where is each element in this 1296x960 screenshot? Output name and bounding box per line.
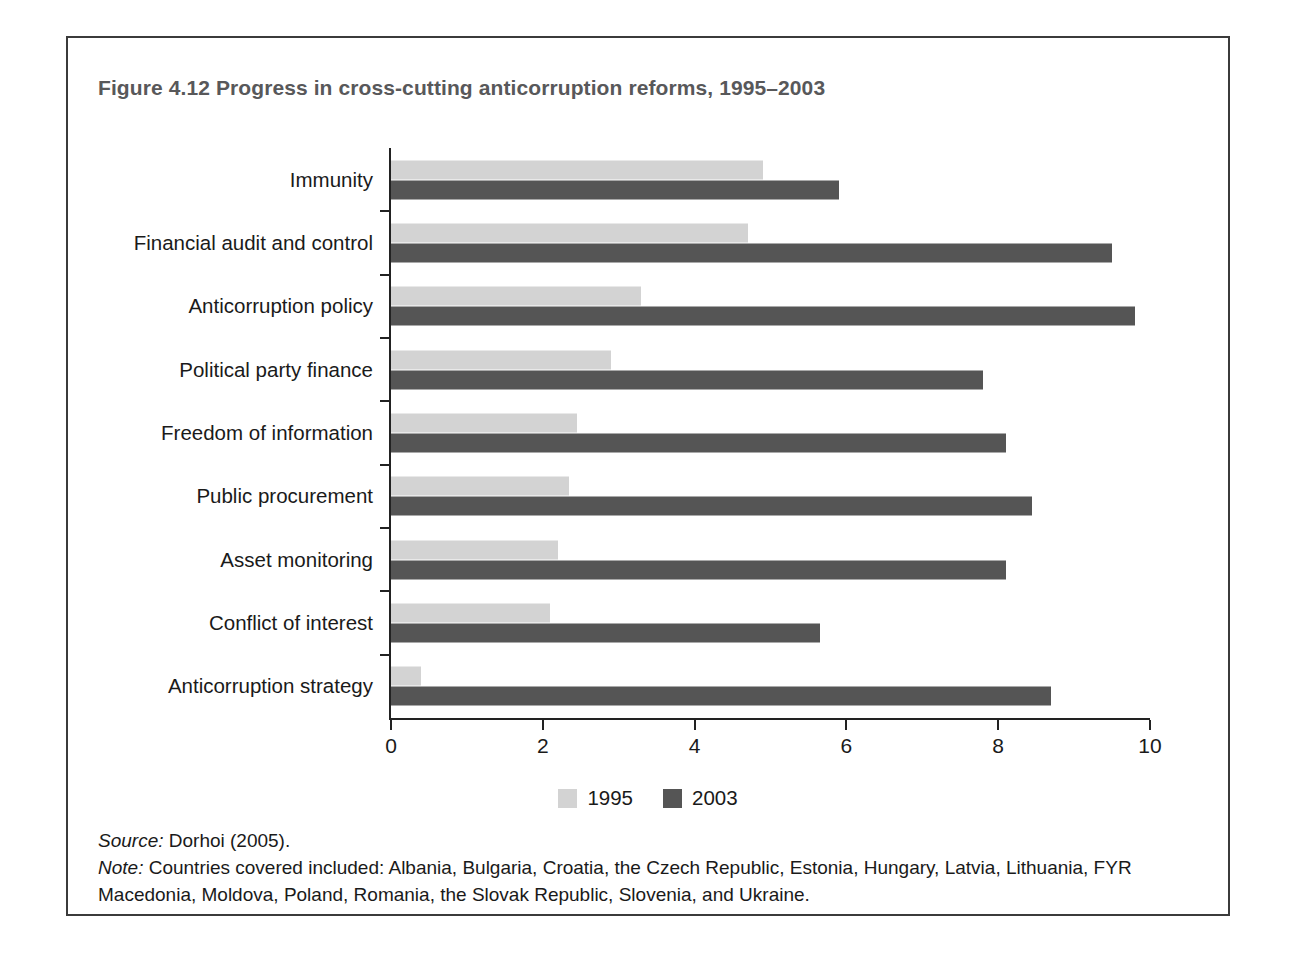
y-axis-tick — [380, 590, 391, 592]
category-label: Anticorruption strategy — [168, 674, 373, 698]
bar-group: Anticorruption strategy — [391, 655, 1150, 718]
legend-label-1995: 1995 — [587, 786, 633, 810]
bar-1995 — [391, 223, 748, 242]
bar-group: Freedom of information — [391, 401, 1150, 464]
bar-1995 — [391, 287, 641, 306]
bar-1995 — [391, 350, 611, 369]
bar-2003 — [391, 687, 1051, 706]
bar-pair — [391, 410, 1150, 455]
x-axis-tick-label: 0 — [385, 734, 397, 758]
bar-2003 — [391, 180, 839, 199]
y-axis-tick — [380, 654, 391, 656]
category-label: Freedom of information — [161, 421, 373, 445]
x-axis-tick — [542, 720, 544, 730]
x-axis-tick — [694, 720, 696, 730]
bar-2003 — [391, 370, 983, 389]
x-axis-tick-label: 10 — [1138, 734, 1161, 758]
bar-2003 — [391, 623, 820, 642]
x-axis-tick-label: 2 — [537, 734, 549, 758]
bar-pair — [391, 347, 1150, 392]
y-axis-tick — [380, 274, 391, 276]
x-axis-tick — [1149, 720, 1151, 730]
bar-group: Public procurement — [391, 465, 1150, 528]
bar-2003 — [391, 497, 1032, 516]
y-axis-tick — [380, 400, 391, 402]
bar-2003 — [391, 307, 1135, 326]
bar-1995 — [391, 667, 421, 686]
bar-1995 — [391, 413, 577, 432]
bar-1995 — [391, 540, 558, 559]
legend-swatch-1995 — [558, 789, 577, 808]
bar-group: Asset monitoring — [391, 528, 1150, 591]
bar-group: Conflict of interest — [391, 591, 1150, 654]
note-value: Countries covered included: Albania, Bul… — [98, 857, 1132, 905]
legend-item-2003: 2003 — [663, 786, 738, 810]
y-axis-tick — [380, 210, 391, 212]
bar-2003 — [391, 243, 1112, 262]
legend-swatch-2003 — [663, 789, 682, 808]
category-label: Financial audit and control — [134, 231, 373, 255]
legend-item-1995: 1995 — [558, 786, 633, 810]
bar-2003 — [391, 560, 1006, 579]
bar-pair — [391, 474, 1150, 519]
chart-plot-area: 0246810 ImmunityFinancial audit and cont… — [391, 148, 1150, 718]
category-label: Asset monitoring — [220, 548, 373, 572]
x-axis-tick — [997, 720, 999, 730]
chart-legend: 19952003 — [68, 786, 1228, 810]
bar-pair — [391, 220, 1150, 265]
x-axis-tick-label: 4 — [689, 734, 701, 758]
y-axis-tick — [380, 464, 391, 466]
bar-pair — [391, 537, 1150, 582]
note-line: Note: Countries covered included: Albani… — [98, 855, 1198, 909]
category-label: Immunity — [290, 168, 373, 192]
figure-title: Figure 4.12 Progress in cross-cutting an… — [98, 76, 825, 100]
y-axis-tick — [380, 527, 391, 529]
note-label: Note: — [98, 857, 143, 878]
x-axis-tick-label: 6 — [841, 734, 853, 758]
bar-group: Political party finance — [391, 338, 1150, 401]
bar-1995 — [391, 603, 550, 622]
source-label: Source: — [98, 830, 163, 851]
source-value: Dorhoi (2005). — [163, 830, 290, 851]
bar-1995 — [391, 160, 763, 179]
source-line: Source: Dorhoi (2005). — [98, 828, 1198, 855]
bar-group: Anticorruption policy — [391, 275, 1150, 338]
bar-1995 — [391, 477, 569, 496]
x-axis-line — [389, 718, 1150, 720]
bar-group: Financial audit and control — [391, 211, 1150, 274]
x-axis-tick — [390, 720, 392, 730]
figure-panel: Figure 4.12 Progress in cross-cutting an… — [66, 36, 1230, 916]
x-axis-tick — [845, 720, 847, 730]
category-label: Conflict of interest — [209, 611, 373, 635]
x-axis-tick-label: 8 — [992, 734, 1004, 758]
figure-footnotes: Source: Dorhoi (2005). Note: Countries c… — [98, 828, 1198, 909]
bar-group: Immunity — [391, 148, 1150, 211]
category-label: Political party finance — [179, 358, 373, 382]
legend-label-2003: 2003 — [692, 786, 738, 810]
bar-pair — [391, 157, 1150, 202]
bar-pair — [391, 664, 1150, 709]
category-label: Public procurement — [196, 484, 373, 508]
bar-pair — [391, 284, 1150, 329]
bar-pair — [391, 600, 1150, 645]
bar-2003 — [391, 433, 1006, 452]
y-axis-tick — [380, 337, 391, 339]
category-label: Anticorruption policy — [188, 294, 373, 318]
